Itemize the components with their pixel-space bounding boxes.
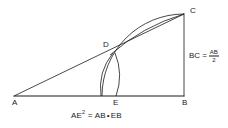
annotation-ae-squared-equals-ab-times-eb: AE2 = AB•EB xyxy=(71,112,122,120)
ae-exponent: 2 xyxy=(82,109,85,115)
arc-center-b-c-to-base xyxy=(102,14,184,96)
bc-lhs: BC xyxy=(189,52,200,60)
bc-fraction: AB 2 xyxy=(209,49,219,63)
vertex-label-a: A xyxy=(12,99,17,107)
geometry-figure xyxy=(0,0,228,128)
vertex-label-c: C xyxy=(190,7,196,15)
ae-equals: = xyxy=(88,111,93,120)
ae-factor-1: AB xyxy=(95,111,106,120)
bc-equals: = xyxy=(202,52,207,60)
diagram-canvas: A B C D E BC = AB 2 AE2 = AB•EB xyxy=(0,0,228,128)
ae-factor-2: EB xyxy=(111,111,122,120)
ae-lhs: AE xyxy=(71,111,82,120)
arc-d-to-base-right xyxy=(115,53,120,96)
vertex-label-d: D xyxy=(103,41,109,49)
vertex-label-e: E xyxy=(113,99,118,107)
annotation-bc-equals-half-ab: BC = AB 2 xyxy=(189,49,219,63)
segment-ac xyxy=(14,14,184,96)
vertex-label-b: B xyxy=(182,99,187,107)
arc-center-a-d-to-c xyxy=(110,14,184,55)
bc-denominator: 2 xyxy=(211,56,216,63)
